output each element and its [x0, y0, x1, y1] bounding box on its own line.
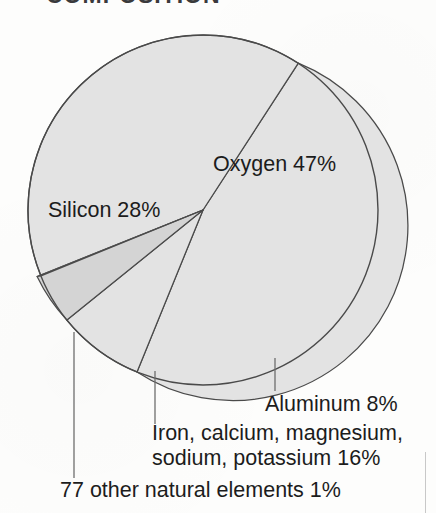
slice-label-silicon: Silicon 28%: [48, 198, 160, 222]
slice-label-other-elements: 77 other natural elements 1%: [60, 478, 341, 502]
slice-label-iron-group-line2: sodium, potassium 16%: [152, 446, 380, 470]
slice-label-aluminum: Aluminum 8%: [265, 392, 398, 416]
page-margin-rule: [425, 452, 426, 513]
pie-chart: Oxygen 47% Silicon 28% Aluminum 8% Iron,…: [0, 0, 436, 513]
slice-label-iron-group-line1: Iron, calcium, magnesium,: [152, 421, 403, 445]
slice-label-oxygen: Oxygen 47%: [213, 152, 336, 176]
